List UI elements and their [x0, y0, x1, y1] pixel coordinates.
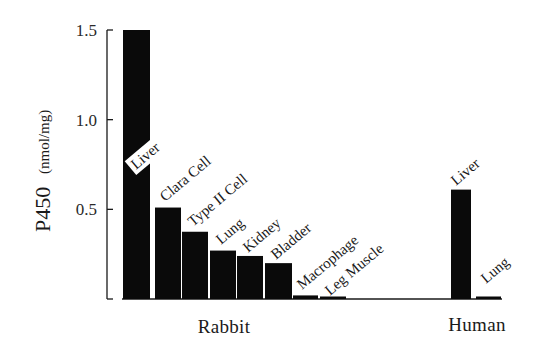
- group-label-human: Human: [448, 314, 506, 335]
- bar-rabbit-bladder: [265, 263, 292, 299]
- bar-rabbit-kidney: [237, 256, 263, 299]
- group-label-rabbit: Rabbit: [198, 316, 251, 337]
- y-axis-unit: (nmol/mg): [36, 110, 53, 174]
- bar-label-text: Clara Cell: [157, 153, 214, 205]
- bar-label-rabbit-clara-cell: Clara Cell: [157, 153, 214, 205]
- y-tick-label: 0.5: [76, 200, 97, 219]
- bar-rabbit-type-ii-cell: [182, 232, 208, 299]
- bar-label-human-lung: Lung: [478, 253, 513, 286]
- bar-rabbit-lung: [210, 251, 236, 299]
- bar-label-text: Lung: [478, 253, 513, 286]
- bar-rabbit-clara-cell: [155, 208, 181, 299]
- y-tick-label: 1.0: [76, 111, 97, 130]
- y-tick-label: 1.5: [76, 21, 97, 40]
- bar-label-text: Liver: [448, 155, 483, 188]
- y-axis-title: P450: [30, 187, 55, 232]
- bar-chart: 0.51.01.5 P450 (nmol/mg) LiverClara Cell…: [0, 0, 543, 352]
- bar-human-lung: [476, 297, 501, 300]
- bar-rabbit-macrophage: [293, 295, 318, 299]
- bar-human-liver: [451, 190, 471, 299]
- bars: [123, 30, 501, 299]
- bar-label-human-liver: Liver: [448, 155, 483, 188]
- y-axis-label: P450 (nmol/mg): [30, 110, 55, 232]
